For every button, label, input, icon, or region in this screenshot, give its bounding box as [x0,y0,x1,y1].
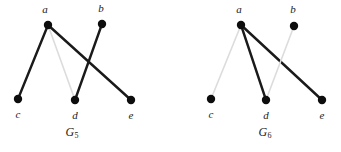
vertex-label-g5-d: d [72,110,78,121]
graph-caption-base: G [66,125,75,139]
graph-vertex-g6-e [318,96,326,104]
graph-vertex-g6-d [262,96,270,104]
graph-edge-g5-bd [75,24,102,100]
vertex-label-g6-a: a [236,4,242,15]
graph-caption-subscript: 5 [74,131,78,140]
graph-vertex-g5-c [14,95,22,103]
graph-edge-g6-ac [211,25,241,99]
graph-caption-subscript: 6 [267,131,271,140]
graph-vertex-g5-d [71,96,79,104]
graph-caption-base: G [259,125,268,139]
graph-figure: abcdeG5abcdeG6 [0,0,341,152]
vertex-label-g6-b: b [290,4,296,15]
graph-edge-g5-ac [18,25,48,99]
graph-edge-g6-bd [266,26,294,100]
graph-vertex-g5-e [127,96,135,104]
vertex-label-g5-b: b [98,3,104,14]
vertex-label-g6-d: d [263,110,269,121]
graph-caption-g5: G5 [66,126,79,140]
graph-vertex-g6-b [290,22,298,30]
graph-canvas [0,0,341,152]
edges-layer [18,24,322,100]
graph-vertex-g5-b [98,20,106,28]
vertex-label-g5-c: c [16,109,21,120]
vertex-label-g6-c: c [209,109,214,120]
graph-vertex-g5-a [44,21,52,29]
vertex-label-g6-e: e [320,110,325,121]
graph-vertex-g6-c [207,95,215,103]
vertex-label-g5-a: a [42,4,48,15]
vertex-label-g5-e: e [129,110,134,121]
graph-vertex-g6-a [237,21,245,29]
graph-caption-g6: G6 [259,126,272,140]
